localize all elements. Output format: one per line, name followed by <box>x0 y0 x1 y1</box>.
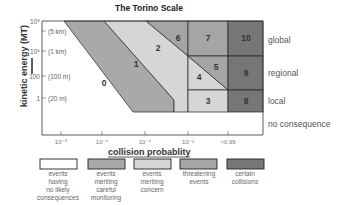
cell-label-10: 10 <box>241 33 251 43</box>
legend-text-2-line-0: events <box>142 170 162 177</box>
band-label-global: global <box>268 35 291 45</box>
y-tick-label-1e8: 10⁸ <box>30 18 40 25</box>
x-tick-label-certain: >0.99 <box>220 139 236 145</box>
torino-scale-chart: The Torino Scale 0 1 2 6 7 10 4 5 9 3 8 … <box>0 0 346 205</box>
y-tick-label-1: 1 <box>36 95 40 102</box>
cell-label-0: 0 <box>102 78 107 88</box>
legend: events having no likely consequences eve… <box>37 159 264 202</box>
legend-text-1-line-3: monitoring <box>91 194 122 202</box>
cell-label-4: 4 <box>197 72 202 82</box>
cell-label-3: 3 <box>206 96 211 106</box>
legend-text-1-line-2: careful <box>96 186 116 193</box>
legend-swatch-4 <box>227 159 264 169</box>
cell-label-5: 5 <box>214 62 219 72</box>
cell-label-8: 8 <box>244 96 249 106</box>
legend-text-0-line-0: events <box>48 170 68 177</box>
y-size-5km: (5 km) <box>48 28 66 36</box>
legend-text-0-line-2: no likely <box>46 186 70 194</box>
legend-text-4-line-0: certain <box>235 170 255 177</box>
x-axis-label: collision probablity <box>108 147 191 157</box>
legend-text-3-line-0: threatening <box>183 170 216 178</box>
x-tick-label-1e-2: 10⁻² <box>182 139 194 145</box>
legend-text-1-line-1: meriting <box>94 178 118 186</box>
legend-swatch-2 <box>134 159 171 169</box>
legend-text-0-line-1: having <box>48 178 68 186</box>
y-size-100m: (100 m) <box>48 73 70 81</box>
legend-swatch-3 <box>180 159 217 169</box>
y-size-1km: (1 km) <box>48 48 66 56</box>
chart-title: The Torino Scale <box>115 3 183 13</box>
y-tick-label-100: 100 <box>29 73 40 80</box>
legend-text-4-line-1: collisions <box>232 178 259 185</box>
cell-label-2: 2 <box>156 43 161 53</box>
y-axis-label: kinetic energy (MT) <box>19 25 29 107</box>
band-label-regional: regional <box>268 68 298 78</box>
cell-label-6: 6 <box>176 33 181 43</box>
legend-text-3-line-1: events <box>189 178 209 185</box>
band-label-local: local <box>268 96 286 106</box>
cell-label-1: 1 <box>134 59 139 69</box>
y-size-20m: (20 m) <box>48 95 67 103</box>
legend-text-1-line-0: events <box>96 170 116 177</box>
legend-swatch-0 <box>40 159 77 169</box>
x-tick-label-1e-4: 10⁻⁴ <box>139 139 152 145</box>
x-tick-label-1e-6: 10⁻⁶ <box>96 139 109 145</box>
legend-text-2-line-1: meriting <box>140 178 164 186</box>
legend-swatch-1 <box>88 159 125 169</box>
cell-label-7: 7 <box>206 33 211 43</box>
legend-text-0-line-3: consequences <box>37 194 80 202</box>
cell-label-9: 9 <box>244 68 249 78</box>
legend-text-2-line-2: concern <box>140 186 164 193</box>
band-label-no-consequence: no consequence <box>268 119 331 129</box>
x-tick-label-1e-8: 10⁻⁸ <box>55 139 68 145</box>
y-tick-label-1e5: 10⁵ <box>30 48 40 55</box>
